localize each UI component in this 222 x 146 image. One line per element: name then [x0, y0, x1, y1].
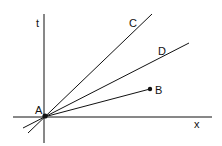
label-a: A: [35, 104, 43, 116]
t-axis-label: t: [36, 17, 39, 29]
label-c: C: [129, 17, 137, 29]
point-a: [42, 113, 47, 118]
label-d: D: [158, 45, 166, 57]
point-b: [148, 87, 152, 91]
spacetime-diagram: t x A B C D: [0, 0, 222, 146]
x-axis-label: x: [194, 118, 200, 130]
label-b: B: [155, 84, 162, 96]
